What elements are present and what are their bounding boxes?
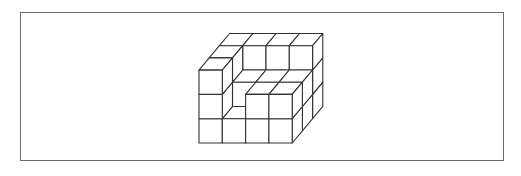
cube-front-face: [269, 94, 292, 118]
cube-front-face: [199, 94, 222, 118]
cube-stack-diagram: [0, 0, 521, 176]
cube-front-face: [289, 46, 312, 70]
cube-front-face: [199, 119, 222, 143]
cube-front-face: [266, 46, 289, 70]
cube-front-face: [243, 46, 266, 70]
cube-front-face: [222, 119, 245, 143]
cube-front-face: [246, 119, 269, 143]
cube-front-face: [199, 70, 222, 94]
cube-front-face: [246, 94, 269, 118]
cube-front-face: [269, 119, 292, 143]
